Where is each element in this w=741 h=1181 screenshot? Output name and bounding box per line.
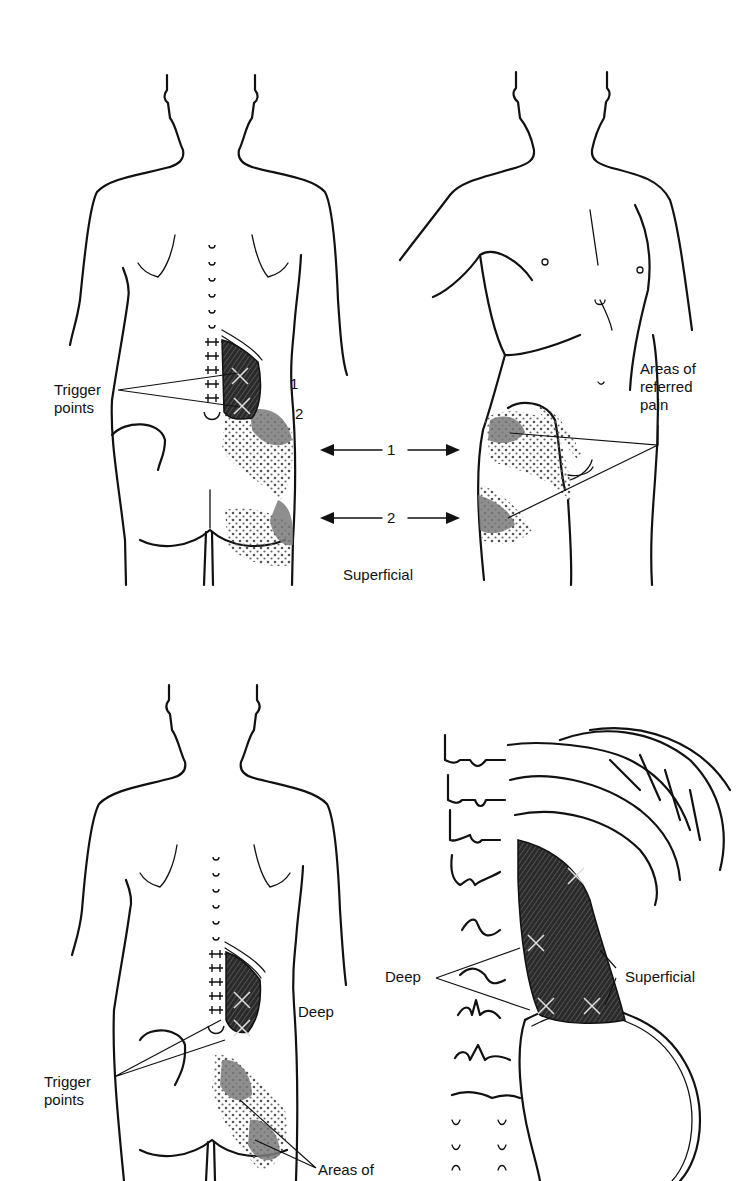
marker-2-label: 2 xyxy=(295,405,303,422)
deep-label: Deep xyxy=(298,1003,334,1021)
marker-1-label: 1 xyxy=(290,375,298,392)
detail-deep-label: Deep xyxy=(385,968,421,986)
arrow-2-label: 2 xyxy=(387,509,395,526)
posterior-torso-deep xyxy=(72,685,346,1181)
lumbar-spine-detail xyxy=(436,728,730,1181)
areas-referred-pain-label: Areas of referred pain xyxy=(640,360,696,414)
posterior-torso-superficial xyxy=(70,75,347,585)
trigger-points-label-bottom: Trigger points xyxy=(44,1073,91,1109)
arrow-1-label: 1 xyxy=(387,441,395,458)
anterolateral-torso xyxy=(400,72,692,585)
anatomy-illustration xyxy=(0,0,741,1181)
areas-of-label: Areas of xyxy=(318,1161,374,1179)
superficial-caption: Superficial xyxy=(343,566,413,584)
trigger-points-label-top: Trigger points xyxy=(54,381,101,417)
detail-superficial-label: Superficial xyxy=(625,968,695,986)
figure-canvas: Trigger points 1 2 1 2 Areas of referred… xyxy=(0,0,741,1181)
